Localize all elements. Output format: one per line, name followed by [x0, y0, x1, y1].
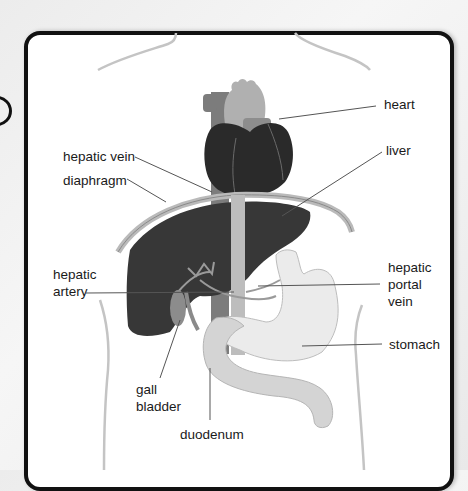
label-gall-bladder-line2: bladder	[136, 398, 181, 415]
label-hepatic-portal-vein-line3: vein	[388, 293, 432, 310]
label-hepatic-portal-vein-line1: hepatic	[388, 259, 432, 276]
label-hepatic-artery-line2: artery	[53, 283, 97, 300]
label-duodenum: duodenum	[180, 426, 244, 443]
label-liver: liver	[386, 142, 411, 159]
label-diaphragm: diaphragm	[63, 172, 127, 189]
label-hepatic-vein: hepatic vein	[63, 148, 135, 165]
label-hepatic-portal-vein: hepatic portal vein	[388, 259, 432, 310]
label-hepatic-portal-vein-line2: portal	[388, 276, 432, 293]
label-stomach: stomach	[389, 336, 440, 353]
label-hepatic-artery: hepatic artery	[53, 266, 97, 300]
label-gall-bladder: gall bladder	[136, 381, 181, 415]
label-gall-bladder-line1: gall	[136, 381, 181, 398]
gall-bladder-shape	[170, 290, 186, 326]
label-hepatic-artery-line1: hepatic	[53, 266, 97, 283]
label-heart: heart	[384, 96, 415, 113]
